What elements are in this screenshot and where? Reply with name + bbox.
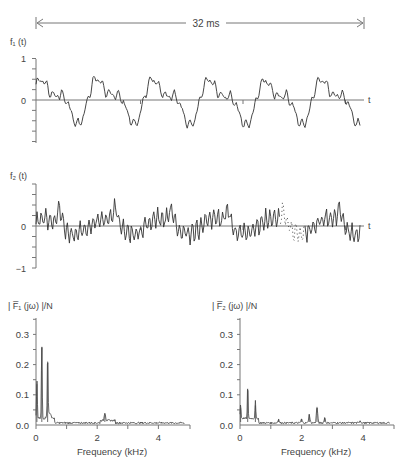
spectrum1-xlabel: Frequency (kHz): [77, 446, 147, 457]
f2-ylabel: f₂ (t): [10, 171, 27, 181]
y-tick-label: 0.2: [220, 359, 233, 370]
x-tick-label: 4: [156, 432, 161, 443]
spectrum-line: [36, 347, 184, 424]
y-tick-label: 0.3: [16, 329, 29, 340]
x-tick-label: 0: [237, 432, 242, 443]
chart-spectrum-1: | F̅₁ (jω) |/N Frequency (kHz) 0.00.10.2…: [8, 301, 190, 457]
spectrum2-xlabel: Frequency (kHz): [281, 446, 351, 457]
waveform-dotted-segment: [281, 203, 305, 242]
chart-f1: f₁ (t) t 10: [10, 37, 371, 143]
f1-xlabel: t: [368, 95, 371, 105]
chart-f2: f₂ (t) t 0−1: [10, 171, 371, 274]
y-tick-label: 0.1: [16, 389, 29, 400]
y-tick-label: 0.3: [220, 329, 233, 340]
figure: 32 ms f₁ (t) t 10 f₂ (t) t 0−1 | F̅₁ (jω…: [0, 0, 410, 473]
y-tick-label: 1: [21, 54, 26, 64]
y-tick-label: 0.0: [220, 420, 233, 431]
y-tick-label: 0: [21, 96, 26, 106]
y-tick-label: 0.2: [16, 359, 29, 370]
f1-ylabel: f₁ (t): [10, 37, 27, 47]
y-tick-label: 0: [21, 222, 26, 232]
x-tick-label: 0: [33, 432, 38, 443]
y-tick-label: −1: [16, 264, 26, 274]
duration-label: 32 ms: [192, 18, 219, 29]
y-tick-label: 0.1: [220, 389, 233, 400]
x-tick-label: 2: [95, 432, 100, 443]
f2-xlabel: t: [368, 221, 371, 231]
chart-spectrum-2: | F̅₂ (jω) |/N Frequency (kHz) 0.00.10.2…: [212, 301, 394, 457]
duration-arrow: 32 ms: [36, 17, 364, 29]
spectrum2-ylabel: | F̅₂ (jω) |/N: [212, 301, 257, 311]
spectrum-line: [240, 389, 389, 423]
waveform-line: [305, 202, 360, 243]
x-tick-label: 2: [299, 432, 304, 443]
x-tick-label: 4: [361, 432, 366, 443]
waveform-line: [36, 199, 280, 245]
spectrum1-ylabel: | F̅₁ (jω) |/N: [8, 301, 53, 311]
y-tick-label: 0.0: [16, 420, 29, 431]
waveform-line: [36, 76, 360, 128]
